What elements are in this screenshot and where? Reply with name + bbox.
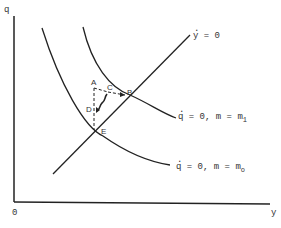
q-dot-zero-m1-curve — [83, 27, 176, 118]
y-dot-zero-label: y = 0 — [193, 32, 220, 41]
q-dot-zero-m1-label: q = 0, m = m1 — [178, 113, 247, 125]
y-dot-zero-line — [53, 35, 190, 174]
point-d-label: D — [86, 106, 92, 114]
x-axis — [14, 202, 270, 204]
point-c-label: C — [107, 84, 113, 92]
y-axis-label: q — [4, 6, 9, 15]
origin-label: 0 — [12, 209, 17, 218]
dashed-a-to-c — [94, 88, 108, 92]
point-a-label: A — [91, 79, 96, 87]
q-dot-zero-m0-label: q = 0, m = mo — [176, 163, 245, 175]
x-axis-label: y — [271, 209, 276, 218]
wavy-path-c-to-d — [97, 94, 107, 111]
point-b-label: B — [127, 89, 132, 97]
point-e-label: E — [101, 128, 106, 136]
